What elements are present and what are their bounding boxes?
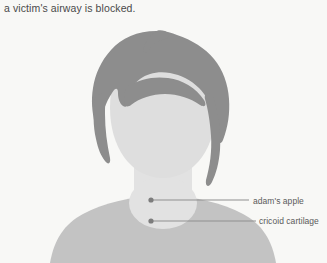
- callout-label-cricoid-cartilage: cricoid cartilage: [259, 216, 319, 227]
- leader-dot-adams-apple: [148, 197, 153, 202]
- caption-text: a victim's airway is blocked.: [4, 2, 136, 15]
- illustration-page: a victim's airway is blocked. adam's app…: [0, 0, 327, 263]
- leader-dot-cricoid-cartilage: [148, 218, 153, 223]
- callout-label-adams-apple: adam's apple: [253, 196, 304, 207]
- hair-left-lock-shape: [94, 92, 111, 163]
